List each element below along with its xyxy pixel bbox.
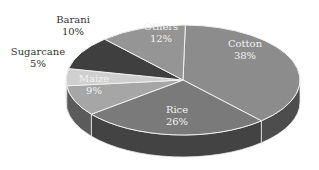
- label-others: Others12%: [144, 21, 179, 45]
- label-barani: Barani10%: [56, 14, 90, 38]
- label-rice: Rice26%: [166, 104, 188, 128]
- label-maize: Maize9%: [79, 73, 110, 97]
- label-sugarcane: Sugarcane5%: [11, 46, 65, 70]
- label-cotton: Cotton38%: [228, 38, 262, 62]
